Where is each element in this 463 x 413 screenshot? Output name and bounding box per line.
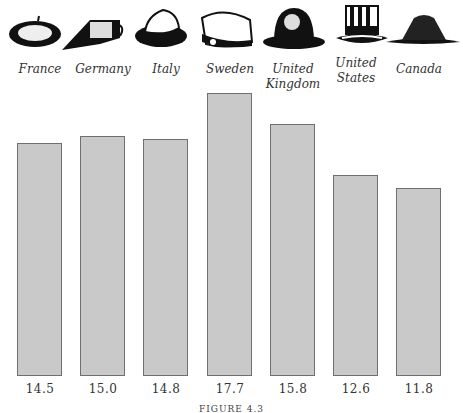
value-label-italy: 14.8 bbox=[136, 382, 196, 396]
category-label-canada: Canada bbox=[379, 62, 459, 77]
beret-icon bbox=[7, 4, 63, 50]
value-label-sweden: 17.7 bbox=[200, 382, 260, 396]
figure-caption: FIGURE 4.3 bbox=[0, 404, 463, 413]
mountie-campaign-hat-icon bbox=[386, 4, 460, 50]
fedora-icon bbox=[133, 4, 189, 50]
bar-united-states bbox=[333, 175, 378, 376]
uncle-sam-top-hat-icon bbox=[334, 4, 390, 50]
bar-italy bbox=[143, 139, 188, 376]
value-label-france: 14.5 bbox=[10, 382, 70, 396]
sailor-cap-icon bbox=[198, 4, 254, 50]
bar-france bbox=[17, 143, 62, 376]
value-label-united-states: 12.6 bbox=[326, 382, 386, 396]
bar-united-kingdom bbox=[270, 124, 315, 376]
bar-sweden bbox=[207, 93, 252, 376]
bar-germany bbox=[80, 136, 125, 376]
bowler-hat-icon bbox=[262, 4, 326, 50]
value-label-germany: 15.0 bbox=[73, 382, 133, 396]
bar-canada bbox=[396, 188, 441, 376]
value-label-united-kingdom: 15.8 bbox=[263, 382, 323, 396]
alpine-hat-icon bbox=[60, 4, 128, 50]
value-label-canada: 11.8 bbox=[389, 382, 449, 396]
